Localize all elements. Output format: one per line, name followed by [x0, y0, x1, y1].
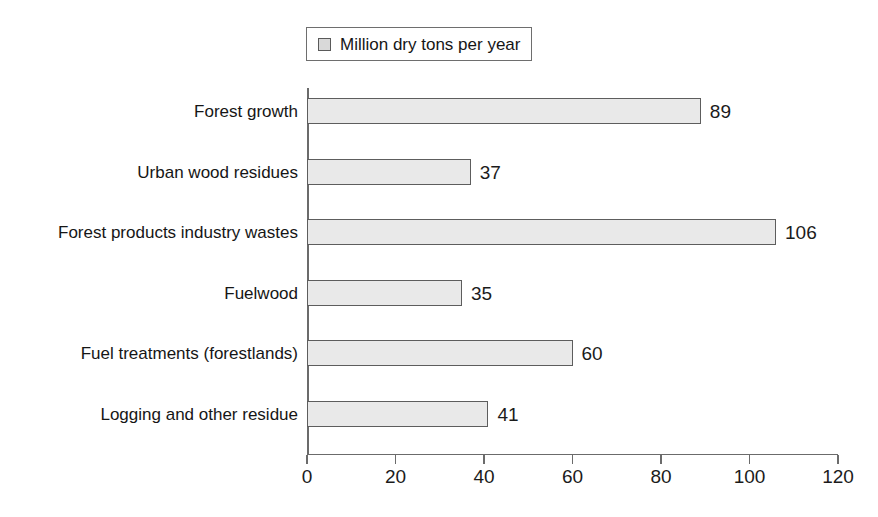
x-axis-tick-label: 40 [473, 467, 494, 486]
category-label: Fuel treatments (forestlands) [81, 345, 298, 362]
x-axis-tick [660, 455, 661, 464]
x-axis-tick-label: 0 [302, 467, 313, 486]
bar [307, 280, 462, 306]
x-axis-tick [749, 455, 750, 464]
bar [307, 401, 488, 427]
chart-legend: Million dry tons per year [306, 27, 532, 61]
bar [307, 340, 573, 366]
bar-value-label: 35 [471, 283, 492, 302]
bar-row: 60 [307, 340, 838, 366]
bar [307, 219, 776, 245]
bar [307, 159, 471, 185]
bar [307, 98, 701, 124]
bar-row: 41 [307, 401, 838, 427]
x-axis-tick [395, 455, 396, 464]
bar-value-label: 89 [710, 102, 731, 121]
x-axis-tick [837, 455, 838, 464]
legend-label: Million dry tons per year [340, 36, 520, 53]
bar-row: 35 [307, 280, 838, 306]
x-axis-tick-label: 20 [385, 467, 406, 486]
bar-row: 106 [307, 219, 838, 245]
bar-value-label: 60 [582, 344, 603, 363]
x-axis-tick-label: 120 [822, 467, 854, 486]
legend-swatch-icon [318, 38, 331, 51]
bar-value-label: 106 [785, 223, 817, 242]
bar-chart: Million dry tons per year 02040608010012… [0, 0, 878, 517]
category-label: Logging and other residue [100, 405, 298, 422]
bar-value-label: 37 [480, 162, 501, 181]
x-axis-tick [483, 455, 484, 464]
y-axis-line [307, 88, 309, 454]
bar-row: 89 [307, 98, 838, 124]
x-axis-tick-label: 80 [650, 467, 671, 486]
category-label: Urban wood residues [137, 163, 298, 180]
bar-value-label: 41 [497, 404, 518, 423]
plot-area: 020406080100120 8937106356041 [307, 88, 838, 454]
x-axis-tick [306, 455, 307, 464]
bar-row: 37 [307, 159, 838, 185]
category-label: Forest growth [194, 103, 298, 120]
category-label: Forest products industry wastes [58, 224, 298, 241]
category-label: Fuelwood [224, 284, 298, 301]
x-axis-tick [572, 455, 573, 464]
x-axis-tick-label: 100 [734, 467, 766, 486]
x-axis-tick-label: 60 [562, 467, 583, 486]
